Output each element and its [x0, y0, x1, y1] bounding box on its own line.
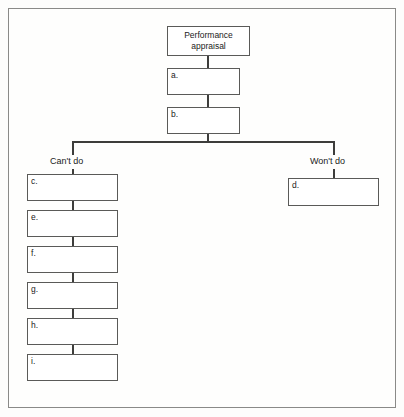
node-i[interactable]: i. — [27, 354, 118, 381]
node-root-line1: Performance — [184, 30, 233, 41]
connector-c-to-e — [72, 201, 74, 210]
connector-root-to-a — [207, 56, 209, 68]
diagram-page: Performance appraisal a. b. Can't do Won… — [0, 0, 404, 417]
connector-h-to-i — [72, 345, 74, 354]
node-b[interactable]: b. — [167, 107, 240, 134]
connector-g-to-h — [72, 309, 74, 318]
node-g[interactable]: g. — [27, 282, 118, 309]
node-e[interactable]: e. — [27, 210, 118, 237]
connector-split-to-wont-do — [333, 141, 335, 155]
branch-label-wont-do: Won't do — [310, 156, 345, 167]
node-b-label: b. — [171, 109, 178, 120]
node-f[interactable]: f. — [27, 246, 118, 273]
node-c[interactable]: c. — [27, 174, 118, 201]
node-performance-appraisal[interactable]: Performance appraisal — [167, 26, 250, 56]
node-a[interactable]: a. — [167, 68, 240, 95]
node-performance-appraisal-text: Performance appraisal — [168, 27, 249, 55]
connector-wont-do-to-d — [333, 169, 335, 178]
node-c-label: c. — [31, 176, 38, 187]
node-h-label: h. — [31, 320, 38, 331]
connector-split-to-cant-do — [72, 141, 74, 155]
node-h[interactable]: h. — [27, 318, 118, 345]
connector-f-to-g — [72, 273, 74, 282]
diagram-frame: Performance appraisal a. b. Can't do Won… — [8, 8, 396, 408]
node-root-line2: appraisal — [191, 41, 226, 52]
connector-a-to-b — [207, 95, 209, 107]
node-a-label: a. — [171, 70, 178, 81]
node-e-label: e. — [31, 212, 38, 223]
connector-split-horizontal — [72, 141, 334, 143]
branch-label-cant-do: Can't do — [50, 156, 83, 167]
node-g-label: g. — [31, 284, 38, 295]
node-f-label: f. — [31, 248, 36, 259]
node-d[interactable]: d. — [288, 178, 379, 206]
node-i-label: i. — [31, 356, 35, 367]
connector-e-to-f — [72, 237, 74, 246]
node-d-label: d. — [292, 180, 299, 191]
